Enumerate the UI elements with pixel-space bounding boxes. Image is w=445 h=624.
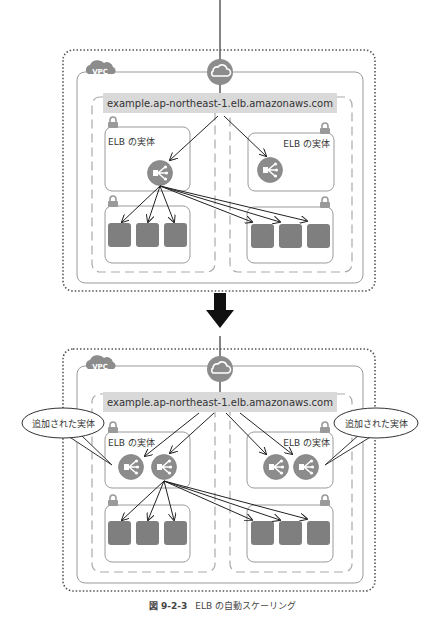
callout-right: 追加された実体: [325, 408, 418, 465]
load-balancer-icon: [258, 158, 283, 183]
instance-icon: [251, 224, 274, 248]
instance-icon: [136, 521, 159, 545]
instance-icon: [307, 521, 330, 545]
elb-label-right: ELB の実体: [283, 138, 330, 149]
instance-icon: [108, 223, 131, 247]
figure-caption: 図 9-2-3ELB の自動スケーリング: [0, 599, 445, 612]
top-diagram: VPC example.ap-northeast-1.elb.amazonaws…: [63, 0, 375, 291]
vpc-label: VPC: [92, 363, 108, 371]
vpc-label: VPC: [92, 68, 108, 76]
load-balancer-icon: [264, 455, 289, 480]
callout-left-text: 追加された実体: [32, 418, 95, 429]
elb-label-left: ELB の実体: [108, 136, 155, 147]
bottom-diagram: VPC example.ap-northeast-1.elb.amazonaws…: [22, 336, 418, 591]
endpoint-label: example.ap-northeast-1.elb.amazonaws.com: [107, 397, 333, 408]
load-balancer-added-icon: [294, 455, 319, 480]
elb-autoscaling-diagram: VPC example.ap-northeast-1.elb.amazonaws…: [0, 0, 445, 624]
elb-label-left: ELB の実体: [108, 437, 155, 448]
callout-right-text: 追加された実体: [345, 418, 408, 429]
figure-title: ELB の自動スケーリング: [195, 601, 296, 611]
instance-icon: [307, 224, 330, 248]
instance-icon: [279, 521, 302, 545]
figure-number: 図 9-2-3: [149, 601, 187, 611]
instance-icon: [251, 521, 274, 545]
instance-icon: [164, 521, 187, 545]
transition-arrow-icon: [206, 293, 234, 328]
load-balancer-icon: [119, 455, 144, 480]
instance-icon: [136, 223, 159, 247]
instance-icon: [279, 224, 302, 248]
endpoint-label: example.ap-northeast-1.elb.amazonaws.com: [107, 98, 333, 109]
elb-label-right: ELB の実体: [283, 437, 330, 448]
instance-icon: [108, 521, 131, 545]
load-balancer-added-icon: [152, 455, 177, 480]
load-balancer-icon: [148, 161, 173, 186]
internet-gateway-icon: [207, 356, 233, 382]
instance-icon: [164, 223, 187, 247]
internet-gateway-icon: [207, 59, 233, 85]
callout-left: 追加された実体: [22, 408, 112, 465]
